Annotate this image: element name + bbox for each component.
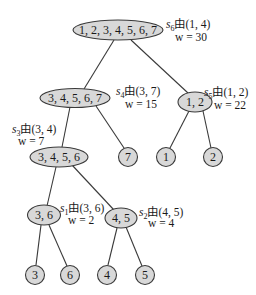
tree-diagram: 1, 2, 3, 4, 5, 6, 7 3, 4, 5, 6, 7 1, 2 3… — [0, 0, 256, 295]
node-label: 4, 5 — [112, 211, 130, 225]
node-1234567: 1, 2, 3, 4, 5, 6, 7 — [73, 20, 163, 40]
edge-root-34567 — [84, 40, 114, 89]
node-3: 3 — [26, 266, 45, 285]
edge-36-3 — [36, 225, 41, 265]
annotation-s5: s5由(1, 2) w = 22 — [204, 85, 249, 111]
node-label: 3, 4, 5, 6 — [38, 150, 80, 164]
svg-text:w = 2: w = 2 — [68, 214, 95, 226]
node-label: 3, 4, 5, 6, 7 — [48, 91, 102, 105]
node-label: 3 — [32, 268, 38, 282]
edge-36-6 — [49, 225, 67, 266]
node-label: 1, 2, 3, 4, 5, 6, 7 — [79, 23, 157, 37]
node-label: 1, 2 — [186, 95, 204, 109]
annotation-s1: s1由(3, 6) w = 2 — [60, 201, 105, 226]
node-1: 1 — [157, 148, 176, 167]
node-label: 6 — [67, 268, 73, 282]
node-45: 4, 5 — [105, 208, 137, 228]
edge-34567-3456 — [62, 107, 70, 147]
edge-45-4 — [108, 228, 117, 265]
node-4: 4 — [98, 266, 117, 285]
node-5: 5 — [136, 266, 155, 285]
annotation-s6: s6由(1, 4) w = 30 — [166, 17, 211, 43]
svg-text:w = 15: w = 15 — [125, 98, 157, 110]
node-label: 7 — [125, 150, 131, 164]
svg-text:w = 30: w = 30 — [175, 31, 207, 43]
annotation-s4: s4由(3, 7) w = 15 — [116, 84, 161, 110]
node-label: 3, 6 — [35, 208, 53, 222]
annotation-s2: s2由(4, 5) w = 4 — [139, 205, 184, 229]
node-label: 2 — [210, 150, 216, 164]
edge-12-1 — [170, 111, 189, 148]
svg-text:w = 22: w = 22 — [214, 99, 246, 111]
annotation-s3: s3由(3, 4) w = 7 — [12, 122, 57, 147]
node-3456: 3, 4, 5, 6 — [30, 147, 88, 167]
node-36: 3, 6 — [28, 205, 61, 225]
node-2: 2 — [204, 148, 223, 167]
edge-34567-7 — [96, 106, 124, 148]
node-7: 7 — [119, 148, 138, 167]
svg-text:w = 4: w = 4 — [148, 217, 175, 229]
node-6: 6 — [61, 266, 80, 285]
edge-3456-36 — [47, 167, 56, 206]
node-label: 4 — [104, 268, 110, 282]
svg-text:w = 7: w = 7 — [18, 135, 45, 147]
node-label: 5 — [142, 268, 148, 282]
edge-12-2 — [203, 111, 211, 148]
node-34567: 3, 4, 5, 6, 7 — [40, 89, 110, 108]
node-label: 1 — [163, 150, 169, 164]
edge-45-5 — [126, 227, 142, 266]
